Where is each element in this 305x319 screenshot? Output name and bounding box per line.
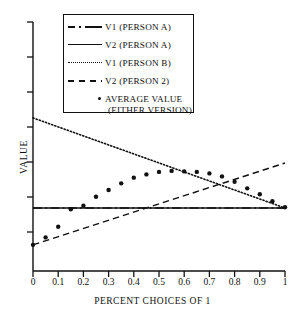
data-point xyxy=(169,169,173,173)
x-tick-label-8: 0.8 xyxy=(223,277,247,287)
data-point xyxy=(220,174,224,178)
legend-item-v1-person-b: V1 (PERSON B) xyxy=(64,55,195,71)
series-line-v1-person-b xyxy=(33,118,285,208)
data-point xyxy=(132,175,136,179)
data-point xyxy=(232,180,236,184)
legend-item-v1-person-a: V1 (PERSON A) xyxy=(64,19,195,35)
data-point xyxy=(245,186,249,190)
dotted-line-sample xyxy=(68,56,102,70)
x-tick-label-0: 0 xyxy=(21,277,45,287)
y-axis-title: VALUE xyxy=(19,127,29,187)
data-point xyxy=(81,204,85,208)
data-point xyxy=(258,192,262,196)
legend-item-v2-person-2: V2 (PERSON 2) xyxy=(64,73,195,89)
x-tick-label-4: 0.4 xyxy=(122,277,146,287)
x-tick-label-7: 0.7 xyxy=(197,277,221,287)
x-tick-label-5: 0.5 xyxy=(147,277,171,287)
legend-label-v2-person-2: V2 (PERSON 2) xyxy=(105,76,169,86)
x-tick-label-10: 1 xyxy=(273,277,297,287)
data-point xyxy=(119,181,123,185)
legend-item-v2-person-a: V2 (PERSON A) xyxy=(64,37,195,53)
x-tick-label-3: 0.3 xyxy=(97,277,121,287)
solid-line-sample xyxy=(68,38,102,52)
legend-label-average-value: AVERAGE VALUE xyxy=(105,94,182,104)
data-point xyxy=(144,172,148,176)
data-point xyxy=(106,188,110,192)
legend-label-v1-person-b: V1 (PERSON B) xyxy=(105,58,171,68)
data-point xyxy=(207,171,211,175)
data-point xyxy=(56,224,60,228)
data-point xyxy=(94,195,98,199)
data-point xyxy=(195,170,199,174)
chart-legend: V1 (PERSON A) V2 (PERSON A) V1 (PERSON B… xyxy=(63,14,194,113)
x-tick-label-6: 0.6 xyxy=(172,277,196,287)
legend-label-average-value-line2: (EITHER VERSION) xyxy=(108,105,192,115)
series-line-v2-person-2 xyxy=(33,163,285,245)
series-plot-group xyxy=(31,118,287,247)
dashdot-line-sample xyxy=(68,20,102,34)
x-axis-title: PERCENT CHOICES OF 1 xyxy=(0,296,305,306)
data-point xyxy=(157,170,161,174)
x-tick-label-2: 0.2 xyxy=(71,277,95,287)
x-tick-label-1: 0.1 xyxy=(46,277,70,287)
dashed-line-sample xyxy=(68,74,102,88)
data-point xyxy=(43,235,47,239)
dot-marker-sample xyxy=(68,92,102,106)
data-point xyxy=(182,169,186,173)
legend-label-v2-person-a: V2 (PERSON A) xyxy=(105,40,171,50)
data-point xyxy=(270,199,274,203)
data-point xyxy=(283,205,287,209)
x-tick-label-9: 0.9 xyxy=(248,277,272,287)
data-point xyxy=(31,243,35,247)
data-point xyxy=(69,207,73,211)
chart-figure: 0 0.1 0.2 0.3 0.4 0.5 0.6 0.7 0.8 0.9 1 … xyxy=(0,0,305,319)
legend-label-v1-person-a: V1 (PERSON A) xyxy=(105,22,171,32)
